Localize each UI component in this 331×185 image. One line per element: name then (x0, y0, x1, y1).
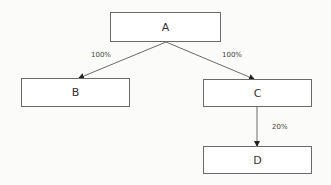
node-d: D (203, 146, 312, 174)
edge-a-to-b (79, 42, 166, 78)
diagram-canvas: A B C D 100% 100% 20% (0, 0, 331, 185)
node-d-label: D (253, 154, 261, 167)
edge-a-c-label: 100% (222, 51, 242, 59)
edge-c-d-label: 20% (272, 123, 288, 131)
node-c: C (203, 79, 312, 107)
node-b-label: B (72, 86, 80, 99)
node-a: A (110, 12, 221, 42)
node-b: B (21, 78, 130, 107)
node-a-label: A (162, 21, 170, 34)
node-c-label: C (254, 87, 262, 100)
edge-a-b-label: 100% (91, 51, 111, 59)
edge-a-to-c (166, 42, 254, 79)
